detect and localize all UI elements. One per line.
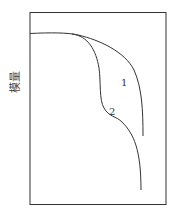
curve-1-label: 1 <box>121 77 127 88</box>
plot-area: 1 2 <box>0 0 174 215</box>
curve-2 <box>72 34 141 190</box>
chart: 模量 1 2 <box>0 0 174 215</box>
curve-2-label: 2 <box>109 106 115 117</box>
